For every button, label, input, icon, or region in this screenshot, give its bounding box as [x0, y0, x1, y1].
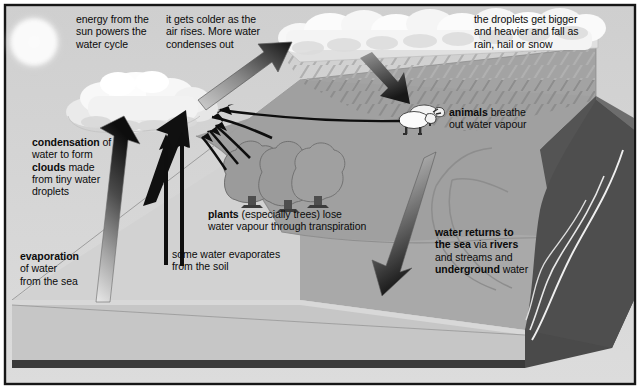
label-soil-evaporation: some water evaporates from the soil: [172, 248, 312, 273]
returns-kw3: rivers: [490, 238, 518, 250]
condensation-kw2: clouds: [32, 161, 66, 173]
label-animals-bold: animals: [449, 106, 488, 118]
label-water-returns: water returns tothe sea via riversand st…: [435, 226, 565, 275]
condensation-t4: from tiny water: [32, 173, 100, 185]
label-condensation: condensation ofwater to formclouds madef…: [32, 136, 142, 197]
label-evaporation: evaporationof water from the sea: [20, 250, 120, 287]
returns-kw1: water returns to: [435, 226, 514, 238]
condensation-t1: of: [100, 136, 112, 148]
returns-kw4: underground: [435, 263, 500, 275]
condensation-kw1: condensation: [32, 136, 100, 148]
condensation-t3: made: [66, 161, 95, 173]
label-colder-air: it gets colder as the air rises. More wa…: [166, 13, 286, 50]
sun-icon: [4, 12, 64, 72]
returns-kw2: the sea: [435, 238, 471, 250]
condensation-t2: water to form: [32, 148, 93, 160]
returns-t4: water: [500, 263, 528, 275]
returns-mid: via: [471, 238, 490, 250]
evaporation-rest: of water from the sea: [20, 262, 78, 286]
returns-t3: and streams and: [435, 251, 512, 263]
water-cycle-diagram: energy from the sun powers the water cyc…: [0, 0, 640, 389]
label-plants: plants (especially trees) lose water vap…: [208, 208, 438, 233]
condensation-t5: droplets: [32, 185, 69, 197]
plants-kw: plants: [208, 208, 239, 220]
sea-bottom-shadow: [12, 360, 525, 368]
evaporation-kw: evaporation: [20, 250, 79, 262]
label-droplets-fall: the droplets get bigger and heavier and …: [474, 13, 614, 50]
label-animals: animals breathe out water vapour: [449, 106, 569, 131]
